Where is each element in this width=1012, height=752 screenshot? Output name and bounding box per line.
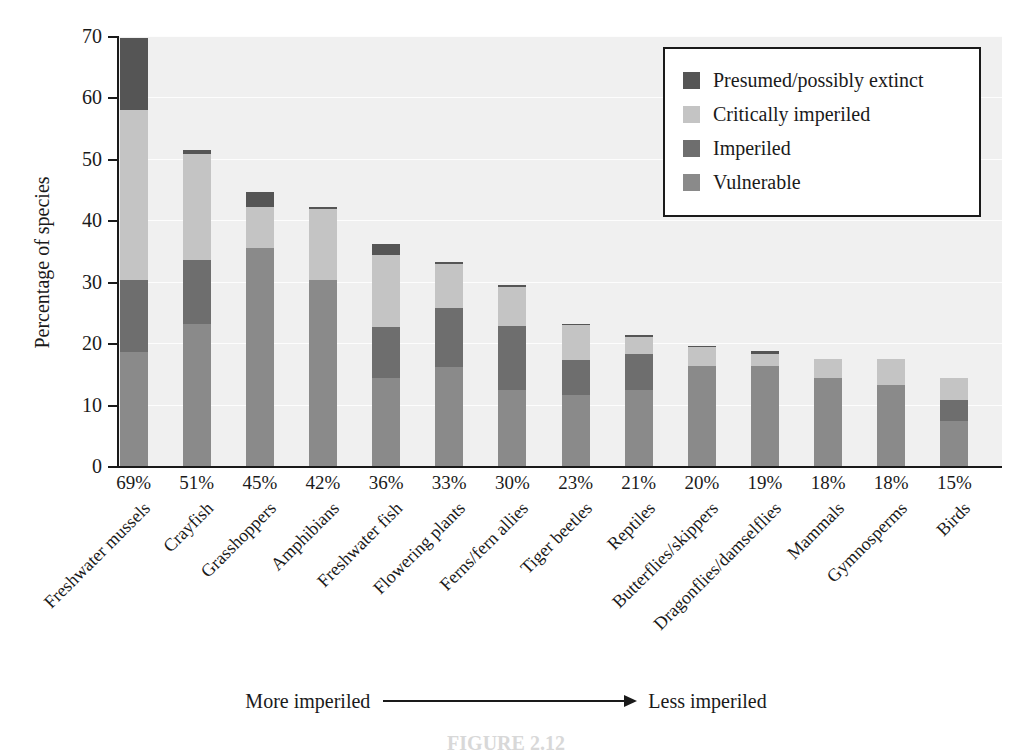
bar-segment[interactable] — [435, 308, 463, 367]
y-tick-label: 70 — [58, 26, 102, 46]
bar-segment[interactable] — [246, 192, 274, 207]
bar-segment[interactable] — [183, 324, 211, 467]
legend-swatch-icon — [683, 140, 700, 157]
bar-segment[interactable] — [814, 378, 842, 466]
y-tick-mark — [108, 97, 118, 99]
percent-label: 51% — [167, 472, 227, 494]
category-label: Freshwater mussels — [40, 498, 155, 613]
y-axis-title-wrapper: Percentage of species — [22, 36, 52, 467]
bar-column[interactable] — [814, 359, 842, 466]
figure-caption: FIGURE 2.12 — [0, 732, 1012, 752]
percent-label: 18% — [861, 472, 921, 494]
bar-segment[interactable] — [120, 352, 148, 466]
y-tick-label: 40 — [58, 210, 102, 230]
bar-column[interactable] — [877, 359, 905, 466]
bar-column[interactable] — [246, 192, 274, 466]
x-axis-line — [117, 466, 1002, 468]
percent-label: 33% — [419, 472, 479, 494]
bar-segment[interactable] — [183, 154, 211, 260]
bar-segment[interactable] — [562, 360, 590, 395]
category-label: Dragonflies/damselflies — [649, 498, 785, 634]
y-tick-label: 10 — [58, 395, 102, 415]
bar-segment[interactable] — [372, 244, 400, 255]
percent-label: 45% — [230, 472, 290, 494]
legend-item[interactable]: Imperiled — [683, 131, 979, 165]
bar-segment[interactable] — [940, 400, 968, 422]
category-label: Reptiles — [603, 498, 660, 555]
y-tick-label: 0 — [58, 456, 102, 476]
bar-column[interactable] — [183, 150, 211, 466]
legend-label: Critically imperiled — [713, 103, 870, 126]
bar-segment[interactable] — [940, 421, 968, 466]
x-axis-percent-labels: 69%51%45%42%36%33%30%23%21%20%19%18%18%1… — [118, 472, 1002, 498]
bar-column[interactable] — [120, 38, 148, 466]
bar-segment[interactable] — [498, 390, 526, 466]
legend-swatch-icon — [683, 72, 700, 89]
bar-segment[interactable] — [372, 378, 400, 466]
bar-segment[interactable] — [625, 354, 653, 391]
less-imperiled-label: Less imperiled — [648, 690, 766, 713]
y-tick-label: 20 — [58, 333, 102, 353]
bar-segment[interactable] — [940, 378, 968, 400]
bar-segment[interactable] — [183, 260, 211, 323]
bar-column[interactable] — [562, 324, 590, 466]
bar-segment[interactable] — [751, 354, 779, 366]
percent-label: 18% — [798, 472, 858, 494]
percent-label: 23% — [546, 472, 606, 494]
bar-segment[interactable] — [120, 280, 148, 352]
y-tick-mark — [108, 36, 118, 38]
bar-segment[interactable] — [688, 347, 716, 365]
y-tick-mark — [108, 405, 118, 407]
bar-segment[interactable] — [120, 38, 148, 110]
category-label: Butterflies/skippers — [608, 498, 723, 613]
percent-label: 69% — [104, 472, 164, 494]
y-axis-title: Percentage of species — [31, 63, 54, 463]
bar-column[interactable] — [625, 335, 653, 466]
bar-segment[interactable] — [814, 359, 842, 378]
legend-item[interactable]: Presumed/possibly extinct — [683, 63, 979, 97]
legend-swatch-icon — [683, 174, 700, 191]
bar-segment[interactable] — [246, 207, 274, 248]
percent-label: 30% — [482, 472, 542, 494]
y-tick-label: 60 — [58, 87, 102, 107]
bar-segment[interactable] — [246, 248, 274, 466]
percent-label: 15% — [924, 472, 984, 494]
legend-item[interactable]: Critically imperiled — [683, 97, 979, 131]
bar-segment[interactable] — [309, 209, 337, 280]
x-axis-category-labels: Freshwater musselsCrayfishGrasshoppersAm… — [118, 498, 1002, 688]
bar-segment[interactable] — [751, 366, 779, 466]
bar-segment[interactable] — [625, 390, 653, 466]
bar-segment[interactable] — [688, 366, 716, 466]
bar-segment[interactable] — [372, 255, 400, 327]
bar-segment[interactable] — [372, 327, 400, 377]
bar-segment[interactable] — [877, 359, 905, 385]
legend-label: Vulnerable — [713, 171, 801, 194]
bar-column[interactable] — [372, 244, 400, 466]
imperilment-gradient-annotation: More imperiled Less imperiled — [0, 684, 1012, 718]
bar-segment[interactable] — [562, 395, 590, 466]
legend-swatch-icon — [683, 106, 700, 123]
legend-item[interactable]: Vulnerable — [683, 165, 979, 199]
bar-segment[interactable] — [435, 264, 463, 308]
y-axis-tick-labels: 010203040506070 — [52, 36, 102, 467]
y-tick-mark — [108, 466, 118, 468]
bar-segment[interactable] — [435, 367, 463, 467]
bar-segment[interactable] — [562, 325, 590, 359]
bar-segment[interactable] — [498, 326, 526, 391]
figure-container: Percentage of species 010203040506070 69… — [0, 0, 1012, 752]
bar-column[interactable] — [940, 378, 968, 466]
bar-segment[interactable] — [498, 287, 526, 326]
bar-segment[interactable] — [625, 337, 653, 354]
bar-column[interactable] — [435, 262, 463, 466]
bar-column[interactable] — [751, 351, 779, 466]
bar-column[interactable] — [688, 346, 716, 466]
bar-segment[interactable] — [877, 385, 905, 466]
bar-column[interactable] — [309, 207, 337, 466]
legend-label: Presumed/possibly extinct — [713, 69, 924, 92]
bar-segment[interactable] — [309, 280, 337, 466]
rightwards-arrow-icon — [383, 700, 635, 702]
bar-segment[interactable] — [120, 110, 148, 280]
y-tick-mark — [108, 282, 118, 284]
bar-column[interactable] — [498, 285, 526, 466]
percent-label: 42% — [293, 472, 353, 494]
